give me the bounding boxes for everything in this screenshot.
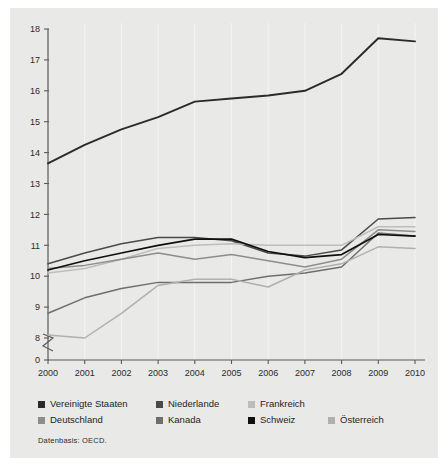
svg-text:16: 16 <box>30 86 40 96</box>
svg-text:2008: 2008 <box>332 368 352 378</box>
source-note: Datenbasis: OECD. <box>38 436 107 445</box>
svg-text:2002: 2002 <box>111 368 131 378</box>
svg-text:17: 17 <box>30 55 40 65</box>
svg-text:15: 15 <box>30 117 40 127</box>
svg-text:2004: 2004 <box>185 368 205 378</box>
svg-text:2001: 2001 <box>75 368 95 378</box>
line-chart: 089101112131415161718 200020012002200320… <box>10 8 438 393</box>
svg-text:10: 10 <box>30 271 40 281</box>
svg-text:2007: 2007 <box>295 368 315 378</box>
svg-text:2003: 2003 <box>148 368 168 378</box>
legend-swatch-icon <box>248 401 255 408</box>
legend-row: DeutschlandKanadaSchweizÖsterreich <box>10 412 438 428</box>
legend-label: Österreich <box>340 415 384 425</box>
svg-text:14: 14 <box>30 148 40 158</box>
legend-label: Schweiz <box>260 415 295 425</box>
svg-text:2009: 2009 <box>368 368 388 378</box>
legend-item[interactable]: Frankreich <box>248 399 328 409</box>
legend-item[interactable]: Österreich <box>328 415 408 425</box>
axes <box>43 29 425 360</box>
svg-text:0: 0 <box>35 355 40 365</box>
y-axis-labels: 089101112131415161718 <box>30 24 40 365</box>
svg-text:2006: 2006 <box>258 368 278 378</box>
svg-text:9: 9 <box>35 302 40 312</box>
legend-item[interactable]: Niederlande <box>156 399 248 409</box>
legend-item[interactable]: Vereinigte Staaten <box>38 399 156 409</box>
legend-label: Kanada <box>168 415 201 425</box>
svg-text:8: 8 <box>35 333 40 343</box>
legend-item[interactable]: Schweiz <box>248 415 328 425</box>
plot-area: 089101112131415161718 200020012002200320… <box>10 8 438 393</box>
chart-legend: Vereinigte StaatenNiederlandeFrankreichD… <box>10 396 438 428</box>
svg-text:2010: 2010 <box>405 368 425 378</box>
legend-swatch-icon <box>38 417 45 424</box>
legend-row: Vereinigte StaatenNiederlandeFrankreich <box>10 396 438 412</box>
legend-label: Frankreich <box>260 399 305 409</box>
legend-swatch-icon <box>156 417 163 424</box>
legend-item[interactable]: Deutschland <box>38 415 156 425</box>
legend-swatch-icon <box>328 417 335 424</box>
axis-break-icon <box>43 334 53 351</box>
svg-text:12: 12 <box>30 210 40 220</box>
x-axis-labels: 2000200120022003200420052006200720082009… <box>38 368 425 378</box>
svg-text:13: 13 <box>30 179 40 189</box>
svg-text:18: 18 <box>30 24 40 34</box>
legend-swatch-icon <box>248 417 255 424</box>
svg-text:2000: 2000 <box>38 368 58 378</box>
legend-item[interactable]: Kanada <box>156 415 248 425</box>
legend-swatch-icon <box>156 401 163 408</box>
gridlines <box>85 23 415 360</box>
chart-figure: 089101112131415161718 200020012002200320… <box>10 8 438 458</box>
svg-text:2005: 2005 <box>221 368 241 378</box>
legend-label: Deutschland <box>50 415 103 425</box>
legend-label: Vereinigte Staaten <box>50 399 128 409</box>
legend-label: Niederlande <box>168 399 219 409</box>
svg-text:11: 11 <box>31 241 40 251</box>
legend-swatch-icon <box>38 401 45 408</box>
